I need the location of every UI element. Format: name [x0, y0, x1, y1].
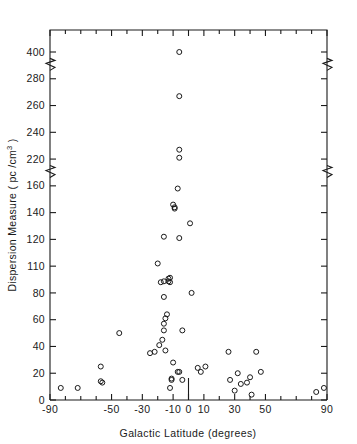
x-tick-label: 50: [259, 403, 271, 415]
y-tick-label: 160: [27, 179, 45, 191]
data-point: [258, 369, 263, 374]
data-point: [163, 348, 168, 353]
data-point: [314, 389, 319, 394]
y-tick-label: 40: [33, 340, 45, 352]
data-point: [161, 234, 166, 239]
data-point: [238, 381, 243, 386]
data-point: [157, 343, 162, 348]
x-tick-label: -10: [165, 403, 181, 415]
data-point: [180, 328, 185, 333]
y-tick-label: 260: [27, 99, 45, 111]
data-point: [177, 147, 182, 152]
y-tick-label: 140: [27, 206, 45, 218]
data-point: [198, 369, 203, 374]
x-tick-label: 0: [185, 403, 191, 415]
y-tick-label: 20: [33, 367, 45, 379]
data-point: [232, 388, 237, 393]
data-point: [228, 377, 233, 382]
data-point: [177, 50, 182, 55]
y-tick-label: 400: [27, 46, 45, 58]
x-tick-label: 90: [321, 403, 333, 415]
data-point: [180, 377, 185, 382]
data-point: [161, 294, 166, 299]
data-point: [321, 385, 326, 390]
data-point: [244, 380, 249, 385]
plot-canvas: -90-50-30-10010305090 400280260240220160…: [0, 0, 357, 444]
data-point: [171, 360, 176, 365]
data-point: [160, 337, 165, 342]
axis-break-marks: [46, 58, 332, 177]
y-tick-labels: 400280260240220160140120110806040200: [27, 46, 45, 406]
data-point: [161, 321, 166, 326]
data-point: [161, 328, 166, 333]
data-point: [249, 392, 254, 397]
data-point: [58, 385, 63, 390]
y-tick-label: 280: [27, 72, 45, 84]
data-point: [152, 349, 157, 354]
data-point: [175, 186, 180, 191]
x-tick-labels: -90-50-30-10010305090: [42, 403, 333, 415]
data-point: [177, 155, 182, 160]
data-point: [155, 261, 160, 266]
y-axis-title: Dispersion Measure ( pc /cm3 ): [5, 138, 18, 291]
data-point: [189, 290, 194, 295]
x-tick-label: 30: [229, 403, 241, 415]
x-axis-ticks: [50, 30, 327, 400]
data-point: [177, 94, 182, 99]
data-point: [177, 236, 182, 241]
y-tick-label: 110: [27, 260, 45, 272]
scatter-plot-figure: -90-50-30-10010305090 400280260240220160…: [0, 0, 357, 444]
y-tick-label: 120: [27, 233, 45, 245]
plot-frame: [50, 30, 327, 400]
x-axis-title: Galactic Latitude (degrees): [120, 427, 257, 439]
y-tick-label: 240: [27, 126, 45, 138]
data-point: [254, 349, 259, 354]
data-point: [248, 375, 253, 380]
y-tick-label: 80: [33, 287, 45, 299]
data-point: [226, 349, 231, 354]
data-point: [235, 371, 240, 376]
x-tick-label: -50: [104, 403, 120, 415]
data-point: [117, 331, 122, 336]
x-tick-label: 10: [198, 403, 210, 415]
y-tick-label: 60: [33, 313, 45, 325]
data-point: [188, 221, 193, 226]
y-axis-title-tail: ): [6, 138, 18, 145]
data-point: [98, 364, 103, 369]
svg-text:Dispersion Measure ( pc /cm3 ): Dispersion Measure ( pc /cm3 ): [5, 138, 18, 291]
y-axis-ticks: [50, 52, 327, 400]
data-point: [75, 385, 80, 390]
data-points: [58, 50, 326, 398]
y-axis-title-main: Dispersion Measure ( pc /cm: [6, 150, 18, 292]
y-tick-label: 220: [27, 153, 45, 165]
y-tick-label: 0: [39, 394, 45, 406]
x-tick-label: -30: [134, 403, 150, 415]
data-point: [203, 364, 208, 369]
data-point: [168, 385, 173, 390]
